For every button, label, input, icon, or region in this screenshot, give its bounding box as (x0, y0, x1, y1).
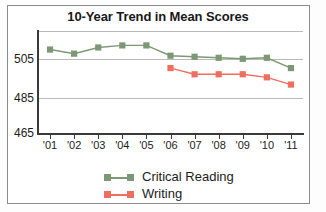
y-tick-label-505: 505 (4, 52, 34, 66)
x-tick-label-9: '10 (254, 139, 280, 151)
chart-title: 10-Year Trend in Mean Scores (8, 9, 308, 24)
legend-item-critical-reading: Critical Reading (104, 170, 284, 187)
x-tick-label-4: '05 (133, 139, 159, 151)
x-tick-label-0: '01 (37, 139, 63, 151)
y-axis-labels: 505 485 465 (3, 0, 34, 212)
legend-marker-critical-reading-left (104, 174, 111, 181)
legend-marker-writing-left (104, 191, 111, 198)
x-tick-label-2: '03 (85, 139, 111, 151)
x-tick-label-1: '02 (61, 139, 87, 151)
gridline-top (38, 31, 303, 32)
legend-label-critical-reading: Critical Reading (142, 169, 234, 184)
plot-area (38, 31, 303, 134)
x-tick-label-10: '11 (278, 139, 304, 151)
legend-marker-critical-reading-right (127, 174, 134, 181)
x-tick-label-5: '06 (158, 139, 184, 151)
y-axis-line (37, 30, 39, 135)
y-tick-label-465: 465 (4, 126, 34, 140)
x-tick-label-6: '07 (182, 139, 208, 151)
legend-marker-writing-right (127, 191, 134, 198)
y-tick-label-485: 485 (4, 91, 34, 105)
x-tick-label-3: '04 (109, 139, 135, 151)
legend-label-writing: Writing (142, 186, 182, 201)
chart-figure: 10-Year Trend in Mean Scores 505 485 465… (0, 0, 326, 212)
x-tick-label-7: '08 (206, 139, 232, 151)
legend-item-writing: Writing (104, 187, 284, 204)
chart-legend: Critical Reading Writing (104, 170, 284, 204)
gridline-485 (38, 98, 303, 99)
gridline-505 (38, 59, 303, 60)
x-tick-label-8: '09 (230, 139, 256, 151)
